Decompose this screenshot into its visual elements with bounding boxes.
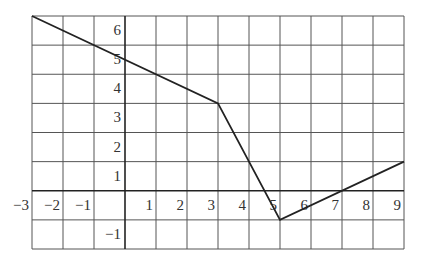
x-tick-label: 8 xyxy=(363,197,371,213)
x-tick-label: −3 xyxy=(13,197,29,213)
y-tick-label: 4 xyxy=(114,80,122,96)
x-tick-label: 1 xyxy=(146,197,154,213)
y-tick-label: 2 xyxy=(114,139,122,155)
x-tick-label: 2 xyxy=(177,197,185,213)
y-tick-label: 3 xyxy=(114,109,122,125)
x-tick-labels: −3−2−1123456789 xyxy=(13,197,401,213)
grid xyxy=(32,16,404,249)
y-tick-label: 5 xyxy=(114,51,122,67)
x-tick-label: 9 xyxy=(394,197,402,213)
y-tick-label: 6 xyxy=(114,22,122,38)
y-tick-label: 1 xyxy=(114,168,122,184)
x-tick-label: 3 xyxy=(208,197,216,213)
x-tick-label: −1 xyxy=(75,197,91,213)
y-tick-label: −1 xyxy=(105,226,121,242)
x-tick-label: 4 xyxy=(239,197,247,213)
chart: −3−2−1123456789 654321−1 xyxy=(0,0,423,263)
x-tick-label: −2 xyxy=(44,197,60,213)
x-tick-label: 7 xyxy=(332,197,340,213)
